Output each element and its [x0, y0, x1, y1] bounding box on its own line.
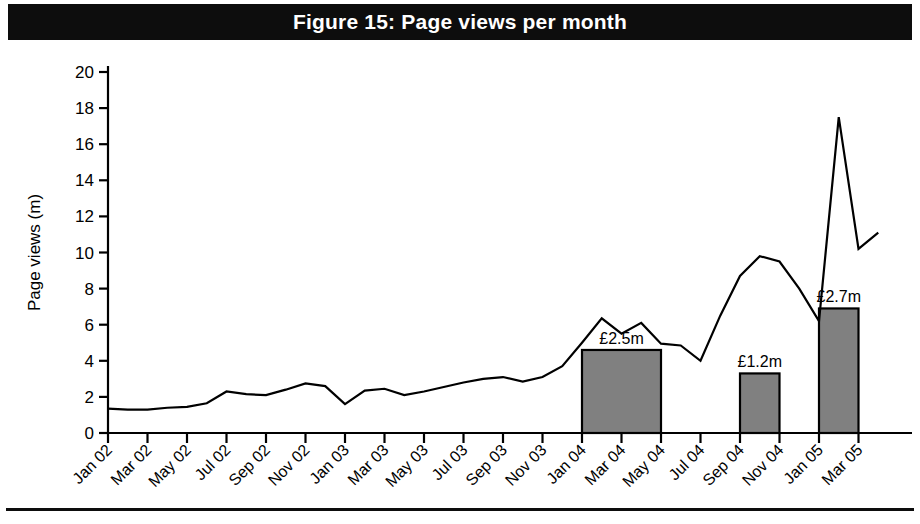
y-tick-label: 8: [85, 280, 94, 299]
y-tick-label: 0: [85, 424, 94, 443]
bar-value-label-2: £1.2m: [738, 353, 782, 370]
figure-footer-rule: [6, 508, 914, 511]
figure-container: Figure 15: Page views per month 02468101…: [0, 0, 920, 524]
bar-1: [582, 350, 661, 433]
x-tick-label: Nov 03: [502, 441, 550, 489]
y-tick-label: 16: [75, 135, 94, 154]
x-tick-label: Sep 02: [225, 441, 273, 489]
y-tick-label: 6: [85, 316, 94, 335]
x-tick-label: May 04: [619, 441, 668, 490]
figure-title-bar: Figure 15: Page views per month: [8, 4, 912, 40]
x-tick-labels-group: Jan 02Mar 02May 02Jul 02Sep 02Nov 02Jan …: [69, 433, 866, 490]
x-tick-label: Nov 04: [739, 441, 787, 489]
figure-title: Figure 15: Page views per month: [293, 10, 627, 34]
y-tick-label: 4: [85, 352, 94, 371]
x-tick-label: Jan 05: [780, 441, 826, 487]
y-tick-label: 20: [75, 63, 94, 82]
x-tick-label: Jan 02: [69, 441, 115, 487]
x-tick-label: Sep 04: [699, 441, 747, 489]
x-tick-label: Nov 02: [265, 441, 313, 489]
plot-area: 02468101214161820 Jan 02Mar 02May 02Jul …: [0, 44, 920, 514]
x-tick-label: Sep 03: [462, 441, 510, 489]
y-axis-title: Page views (m): [25, 194, 44, 311]
bar-2: [740, 373, 780, 433]
y-tick-label: 18: [75, 99, 94, 118]
x-tick-label: Jan 04: [543, 441, 589, 487]
y-tick-label: 14: [75, 171, 94, 190]
y-tick-labels-group: 02468101214161820: [75, 63, 108, 443]
bar-value-label-1: £2.5m: [599, 330, 643, 347]
x-tick-label: May 02: [145, 441, 194, 490]
y-tick-label: 12: [75, 207, 94, 226]
y-axis-title-group: Page views (m): [25, 194, 44, 311]
y-tick-label: 2: [85, 388, 94, 407]
x-tick-label: May 03: [382, 441, 431, 490]
bar-3: [819, 308, 859, 433]
bar-value-label-3: £2.7m: [817, 288, 861, 305]
x-tick-label: Mar 05: [818, 441, 865, 488]
chart-svg: 02468101214161820 Jan 02Mar 02May 02Jul …: [0, 44, 920, 514]
y-tick-label: 10: [75, 244, 94, 263]
x-tick-label: Jan 03: [306, 441, 352, 487]
bar-series-group: [582, 308, 859, 433]
